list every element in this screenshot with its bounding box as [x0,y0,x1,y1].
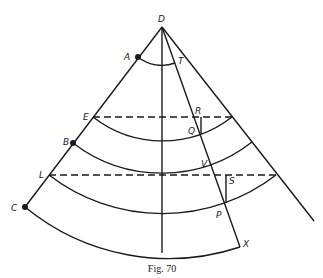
arc-a-t [138,57,175,65]
point-a [135,54,141,60]
label-b: B [63,137,69,147]
figure-caption: Fig. 70 [148,263,176,274]
label-r: R [195,106,201,116]
label-x: X [242,239,250,249]
label-t: T [178,56,185,66]
label-l: L [39,170,44,180]
point-b [70,140,76,146]
label-q: Q [188,126,195,136]
label-c: C [11,203,18,213]
label-d: D [158,14,165,24]
label-s: S [229,176,235,186]
label-a: A [123,52,130,62]
label-v: V [201,159,208,169]
label-e: E [83,112,89,122]
label-p: P [216,210,222,220]
arc-c [25,207,240,259]
point-c [22,204,28,210]
geometry-figure: D A T E R Q B V L S C P X Fig. 70 [0,0,323,278]
right-edge-line [162,27,314,221]
